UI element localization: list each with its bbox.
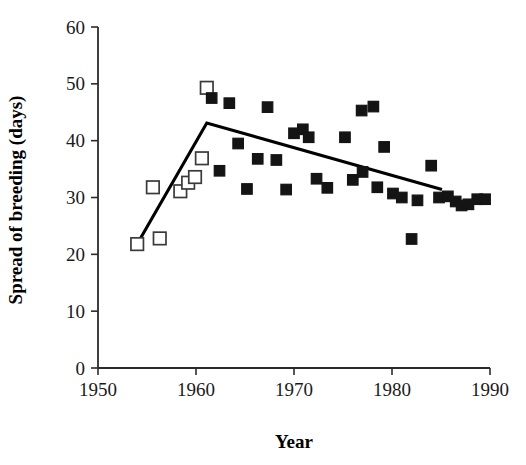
data-point-filled xyxy=(303,132,314,143)
data-point-open xyxy=(189,171,202,184)
y-axis-title: Spread of breeding (days) xyxy=(5,96,27,305)
y-axis xyxy=(91,27,98,368)
data-point-filled xyxy=(368,101,379,112)
data-point-filled xyxy=(271,155,282,166)
data-point-open xyxy=(131,238,144,251)
plot-canvas: 0102030405060 19501960197019801990 Year … xyxy=(0,0,526,465)
data-point-filled xyxy=(340,132,351,143)
data-point-filled xyxy=(224,98,235,109)
data-point-open xyxy=(147,181,160,194)
data-point-filled xyxy=(242,184,253,195)
data-point-filled xyxy=(281,184,292,195)
data-point-filled xyxy=(480,194,491,205)
data-point-filled xyxy=(372,182,383,193)
data-point-filled xyxy=(322,183,333,194)
data-point-open xyxy=(153,232,166,245)
filled-square-markers xyxy=(206,93,490,244)
y-tick-label: 40 xyxy=(66,130,85,151)
data-point-filled xyxy=(311,174,322,185)
data-point-filled xyxy=(379,142,390,153)
y-tick-label: 50 xyxy=(66,73,85,94)
y-tick-label: 20 xyxy=(66,244,85,265)
y-tick-label: 10 xyxy=(66,301,85,322)
data-point-filled xyxy=(262,102,273,113)
data-point-open xyxy=(201,82,214,95)
data-point-filled xyxy=(357,167,368,178)
y-tick-label: 30 xyxy=(66,187,85,208)
y-tick-label: 0 xyxy=(76,358,86,379)
data-point-filled xyxy=(206,93,217,104)
data-point-filled xyxy=(348,175,359,186)
data-point-filled xyxy=(356,105,367,116)
x-tick-label: 1980 xyxy=(373,379,411,400)
y-tick-labels: 0102030405060 xyxy=(66,17,85,379)
data-point-filled xyxy=(397,192,408,203)
x-tick-labels: 19501960197019801990 xyxy=(79,379,509,400)
data-point-open xyxy=(196,152,209,165)
scatter-plot-figure: 0102030405060 19501960197019801990 Year … xyxy=(0,0,526,465)
data-point-filled xyxy=(426,160,437,171)
x-tick-label: 1990 xyxy=(471,379,509,400)
data-point-filled xyxy=(252,154,262,165)
data-point-filled xyxy=(233,138,244,149)
x-axis xyxy=(98,368,490,375)
data-point-filled xyxy=(406,234,417,245)
x-tick-label: 1950 xyxy=(79,379,117,400)
data-point-filled xyxy=(214,166,225,177)
data-point-filled xyxy=(412,195,423,206)
x-axis-title: Year xyxy=(275,431,314,452)
x-tick-label: 1960 xyxy=(177,379,215,400)
open-square-markers xyxy=(131,82,213,251)
y-tick-label: 60 xyxy=(66,17,85,38)
x-tick-label: 1970 xyxy=(275,379,313,400)
